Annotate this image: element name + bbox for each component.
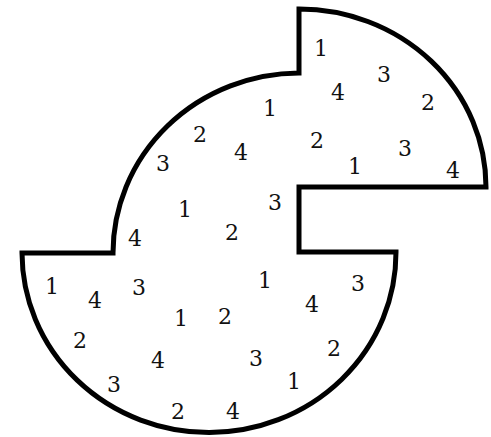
number-label: 4 — [305, 292, 319, 317]
number-label: 3 — [249, 346, 263, 371]
number-label: 2 — [421, 90, 435, 115]
number-label: 1 — [263, 96, 277, 121]
number-label: 4 — [226, 399, 240, 424]
number-label: 4 — [128, 226, 142, 251]
number-label: 1 — [178, 197, 192, 222]
number-label: 4 — [151, 348, 165, 373]
puzzle-diagram: 13421224331431241313441222433124 — [0, 0, 491, 437]
number-label: 3 — [107, 372, 121, 397]
number-label: 3 — [398, 136, 412, 161]
number-label: 4 — [446, 158, 460, 183]
number-label: 2 — [225, 220, 239, 245]
number-label: 1 — [314, 36, 328, 61]
number-label: 3 — [351, 271, 365, 296]
number-label: 2 — [171, 399, 185, 424]
number-label: 1 — [287, 369, 301, 394]
number-label: 4 — [88, 288, 102, 313]
number-label: 3 — [268, 190, 282, 215]
number-label: 2 — [193, 122, 207, 147]
number-label: 3 — [132, 275, 146, 300]
number-label: 2 — [73, 328, 87, 353]
number-label: 3 — [156, 151, 170, 176]
number-label: 1 — [174, 306, 188, 331]
number-label: 2 — [310, 128, 324, 153]
number-label: 4 — [234, 140, 248, 165]
number-label: 2 — [218, 304, 232, 329]
number-label: 1 — [258, 268, 272, 293]
number-label: 3 — [377, 62, 391, 87]
number-label: 1 — [348, 154, 362, 179]
number-label: 4 — [331, 80, 345, 105]
number-label: 1 — [45, 274, 59, 299]
number-label: 2 — [327, 336, 341, 361]
